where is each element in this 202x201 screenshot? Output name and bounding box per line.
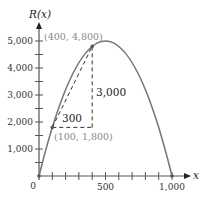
y-tick-label: 5,000 — [7, 36, 33, 46]
rise-label: 3,000 — [96, 86, 126, 98]
origin-label: 0 — [30, 181, 36, 191]
run-label: 300 — [62, 112, 82, 124]
y-tick-label: 3,000 — [7, 90, 33, 100]
y-tick-label: 2,000 — [7, 117, 33, 127]
y-axis-arrow-icon — [36, 22, 42, 29]
revenue-chart: 1,000 2,000 3,000 4,000 5,000 0 500 1,00… — [0, 0, 202, 201]
x-axis-arrow-icon — [184, 173, 191, 179]
revenue-curve — [39, 41, 172, 176]
y-tick-label: 1,000 — [7, 144, 33, 154]
point-400-4800 — [90, 45, 94, 49]
x-axis-title: x — [193, 169, 199, 181]
point-100-1800 — [51, 126, 55, 130]
point-origin — [37, 174, 41, 178]
y-tick-label: 4,000 — [7, 63, 33, 73]
y-axis-title: R(x) — [28, 8, 51, 20]
x-tick-label: 1,000 — [159, 182, 185, 192]
point-label-100-1800: (100, 1,800) — [54, 131, 113, 142]
point-label-400-4800: (400, 4,800) — [44, 31, 103, 42]
point-1000-0 — [170, 174, 174, 178]
x-tick-label: 500 — [97, 182, 114, 192]
